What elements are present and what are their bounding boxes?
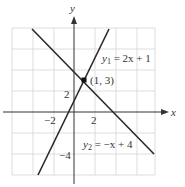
y-axis-label: y: [69, 2, 75, 14]
line-y2: [32, 29, 154, 154]
y-tick-label: 2: [64, 88, 70, 100]
grid: [12, 28, 155, 175]
y-axis-arrow-icon: [71, 16, 77, 24]
x-tick-label: 2: [91, 114, 97, 126]
intersection-label: (1, 3): [90, 74, 114, 87]
x-tick-label: −2: [44, 114, 56, 126]
x-axis-label: x: [170, 106, 176, 118]
equation-y1-label: y1 = 2x + 1: [101, 52, 151, 66]
equation-y2-label: y2 = −x + 4: [82, 138, 133, 152]
y-tick-label: −4: [59, 149, 71, 161]
linear-system-graph: x y −2 2 2 −4 (1, 3) y1 = 2x + 1 y2 = −x…: [0, 0, 185, 187]
intersection-point: [82, 78, 87, 83]
x-axis-arrow-icon: [161, 109, 169, 115]
